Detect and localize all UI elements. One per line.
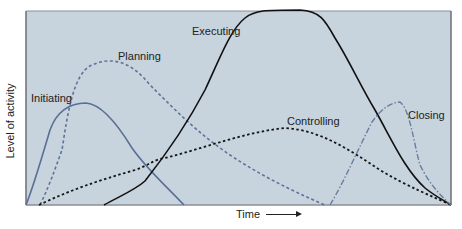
label-controlling: Controlling <box>287 115 340 127</box>
label-initiating: Initiating <box>31 92 72 104</box>
chart-canvas: Initiating Planning Executing Controllin… <box>0 0 462 229</box>
plot-area <box>26 11 451 205</box>
arrow-right-icon <box>266 214 300 215</box>
label-closing: Closing <box>408 109 445 121</box>
chart: Initiating Planning Executing Controllin… <box>0 0 462 229</box>
label-executing: Executing <box>192 25 240 37</box>
y-axis-label-text: Level of activity <box>4 83 16 158</box>
label-planning: Planning <box>118 50 161 62</box>
x-axis-label-text: Time <box>236 208 260 220</box>
y-axis-label: Level of activity <box>2 66 18 176</box>
x-axis-label: Time <box>236 208 300 220</box>
